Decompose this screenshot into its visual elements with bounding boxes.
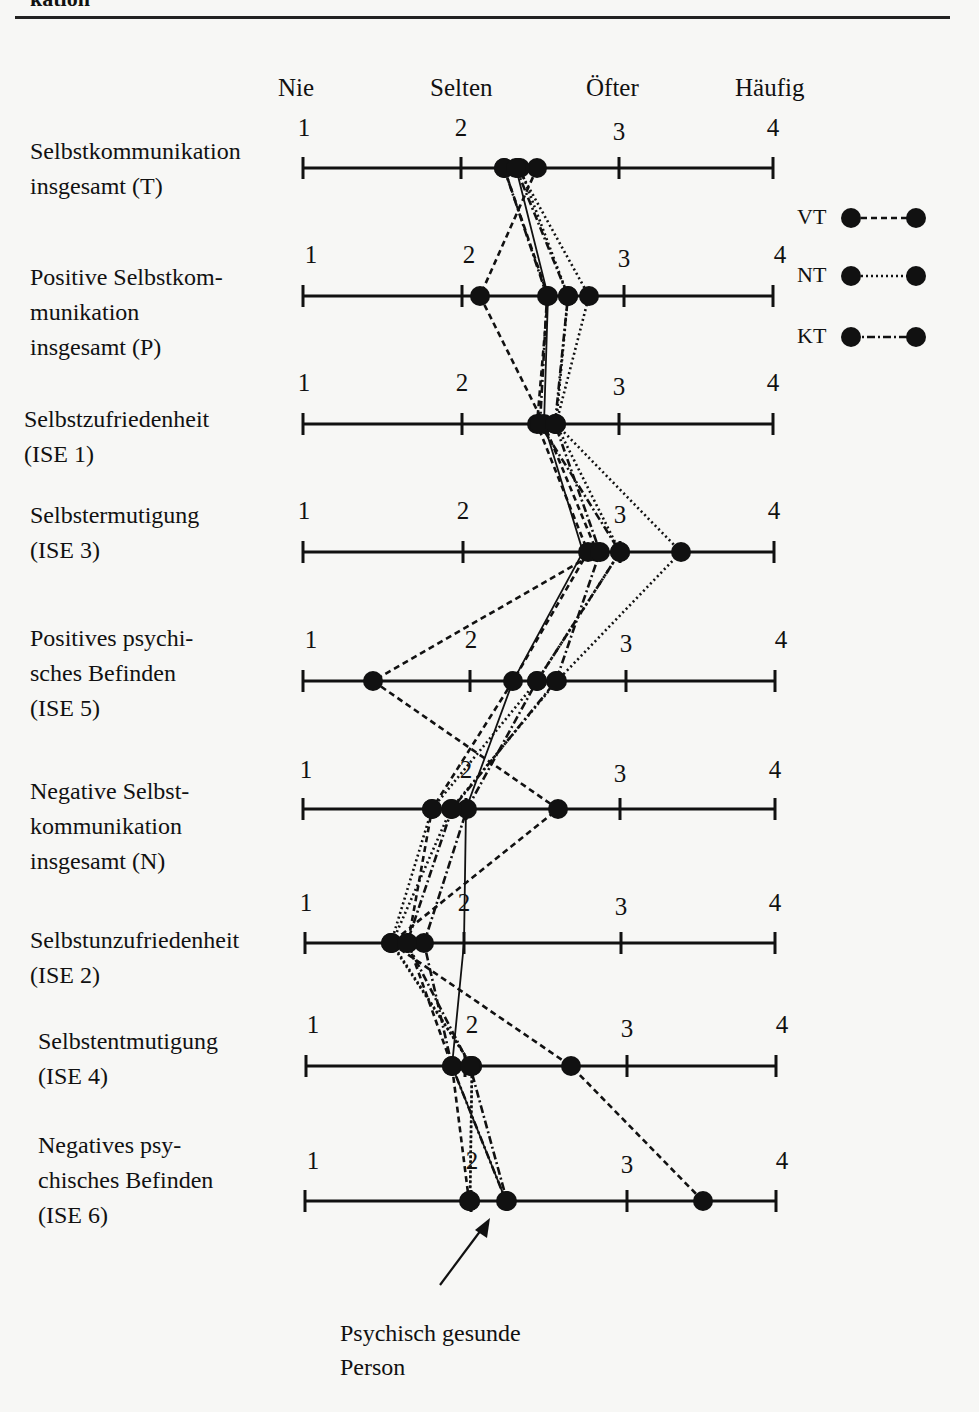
- series-line-kt-post: [407, 168, 600, 1201]
- data-point-marker: [558, 286, 578, 306]
- data-point-marker: [363, 671, 383, 691]
- legend-marker: [841, 327, 861, 347]
- data-point-marker: [442, 1056, 462, 1076]
- data-point-marker: [610, 542, 630, 562]
- legend-marker: [906, 266, 926, 286]
- data-point-marker: [546, 671, 566, 691]
- legend-marker: [906, 327, 926, 347]
- data-point-marker: [527, 671, 547, 691]
- data-point-marker: [497, 1191, 517, 1211]
- data-point-marker: [590, 542, 610, 562]
- profile-chart: [0, 0, 979, 1412]
- legend-label-vt: VT: [797, 204, 826, 230]
- data-point-marker: [460, 1056, 480, 1076]
- data-point-marker: [503, 671, 523, 691]
- annotation-arrow: [440, 1226, 484, 1285]
- legend-label-kt: KT: [797, 323, 826, 349]
- data-point-marker: [537, 286, 557, 306]
- data-point-marker: [561, 1056, 581, 1076]
- annotation-healthy-person: Psychisch gesunde Person: [340, 1316, 521, 1384]
- data-point-marker: [470, 286, 490, 306]
- data-point-marker: [442, 799, 462, 819]
- data-point-marker: [422, 799, 442, 819]
- legend-label-nt: NT: [797, 262, 826, 288]
- data-point-marker: [579, 286, 599, 306]
- legend-marker: [841, 208, 861, 228]
- legend-marker: [906, 208, 926, 228]
- data-point-marker: [545, 414, 565, 434]
- data-point-marker: [671, 542, 691, 562]
- data-point-marker: [693, 1191, 713, 1211]
- legend-marker: [841, 266, 861, 286]
- data-point-marker: [460, 1191, 480, 1211]
- data-point-marker: [397, 933, 417, 953]
- data-point-marker: [506, 158, 526, 178]
- data-point-marker: [548, 799, 568, 819]
